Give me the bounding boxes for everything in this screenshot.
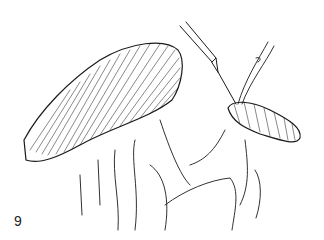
illustration: 9 [0,0,324,240]
large-cap-outline [24,43,182,161]
forceps-icon [238,42,274,104]
illustration-drawing [0,0,324,240]
figure-label: 9 [14,213,22,229]
needle-icon [180,22,236,104]
